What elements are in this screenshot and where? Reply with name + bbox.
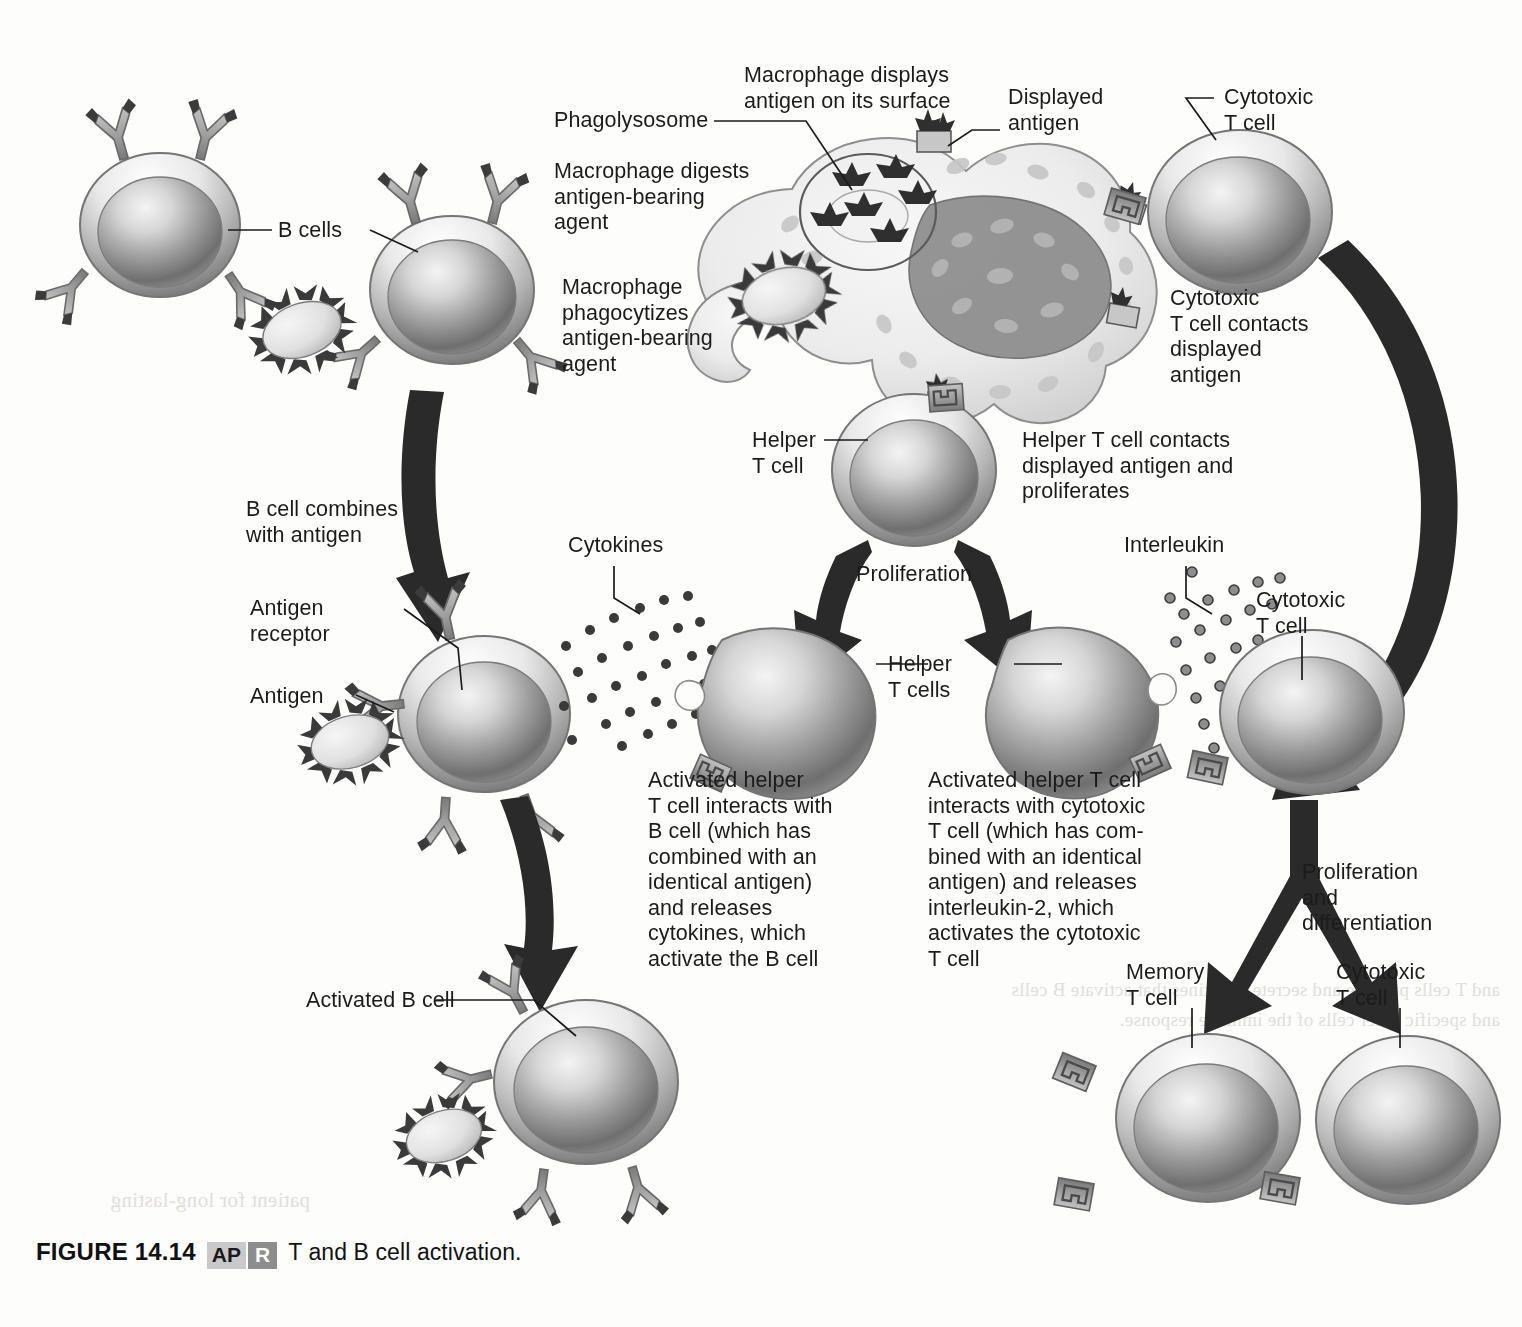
label-proliferation-differentiation: Proliferation and differentiation — [1302, 860, 1432, 937]
figure-page: and T cells produce and secrete cytokine… — [0, 0, 1522, 1327]
macrophage-cell — [688, 109, 1157, 423]
t-cell-receptor-top — [1104, 188, 1146, 224]
t-cell-receptor-memory-upper — [1053, 1053, 1096, 1092]
arrow-to-activated-b-cell — [500, 796, 578, 1012]
t-cell-receptor-cytotoxic-mid — [1187, 751, 1228, 785]
t-cell-receptor-helper — [928, 384, 964, 412]
label-helper-t-cell: Helper T cell — [752, 428, 816, 479]
cytotoxic-t-cell-mid — [1187, 630, 1404, 794]
t-cell-receptor-memory-lower — [1054, 1178, 1094, 1211]
label-antigen: Antigen — [250, 684, 324, 710]
label-cytotoxic-t-cell-bottom: Cytotoxic T cell — [1336, 960, 1425, 1011]
antigen-fragments — [810, 154, 937, 242]
label-proliferation: Proliferation — [856, 562, 972, 588]
antigen-agent-upper-left — [235, 269, 369, 391]
displayed-antigen-right — [1111, 179, 1152, 225]
cytotoxic-t-cell-bottom — [1260, 1036, 1500, 1205]
displayed-antigen-right-lower — [1106, 285, 1143, 328]
label-macrophage-displays: Macrophage displays antigen on its surfa… — [744, 63, 951, 114]
figure-artwork — [0, 0, 1522, 1327]
label-cytotoxic-t-cell-mid: Cytotoxic T cell — [1256, 588, 1345, 639]
antigen-bound-activated-b — [381, 1079, 507, 1193]
b-cell-with-antigen — [343, 577, 570, 857]
cytotoxic-t-cell-top — [1104, 130, 1332, 294]
antigen-bearing-agent-macrophage — [717, 237, 851, 357]
antigen-receptor-left — [343, 677, 406, 735]
apr-badge-ap: AP — [207, 1242, 248, 1269]
displayed-antigen-bottom — [925, 371, 962, 413]
figure-number: FIGURE 14.14 — [36, 1238, 196, 1266]
cytokine-dots — [559, 591, 717, 751]
label-b-cells: B cells — [278, 218, 342, 244]
label-antigen-receptor: Antigen receptor — [250, 596, 330, 647]
label-macrophage-digests: Macrophage digests antigen-bearing agent — [554, 159, 749, 236]
figure-caption: FIGURE 14.14 APR T and B cell activation… — [36, 1238, 522, 1267]
label-macrophage-phagocytizes: Macrophage phagocytizes antigen-bearing … — [562, 275, 713, 377]
b-cell-upper-right — [320, 160, 571, 399]
label-b-cell-combines: B cell combines with antigen — [246, 497, 398, 548]
label-cytotoxic-contacts: Cytotoxic T cell contacts displayed anti… — [1170, 286, 1309, 388]
label-helper-t-cells: Helper T cells — [888, 652, 952, 703]
memory-t-cell — [1053, 1034, 1300, 1211]
label-cytotoxic-t-cell-top: Cytotoxic T cell — [1224, 85, 1313, 136]
helper-t-cell-center — [832, 384, 996, 546]
label-cytokines: Cytokines — [568, 533, 663, 559]
label-activated-helper-b: Activated helper T cell interacts with B… — [648, 768, 833, 972]
displayed-antigen-top — [915, 109, 955, 152]
label-displayed-antigen: Displayed antigen — [1008, 85, 1103, 136]
activated-b-cell — [432, 951, 678, 1228]
apr-badge-r: R — [248, 1242, 277, 1269]
arrow-b-cell-combines — [396, 390, 470, 642]
b-cell-upper-left — [30, 96, 279, 334]
figure-title: T and B cell activation. — [288, 1239, 521, 1266]
label-activated-b-cell: Activated B cell — [306, 988, 455, 1014]
t-cell-receptor-cytotoxic-bottom — [1260, 1172, 1300, 1205]
label-helper-contacts: Helper T cell contacts displayed antigen… — [1022, 428, 1233, 505]
label-memory-t-cell: Memory T cell — [1126, 960, 1204, 1011]
label-activated-helper-cytotoxic: Activated helper T cell interacts with c… — [928, 768, 1145, 972]
ghost-text-left: patient for long-lasting — [70, 1185, 310, 1215]
apr-badge[interactable]: APR — [207, 1242, 277, 1269]
label-interleukin: Interleukin — [1124, 533, 1224, 559]
label-phagolysosome: Phagolysosome — [554, 108, 708, 134]
